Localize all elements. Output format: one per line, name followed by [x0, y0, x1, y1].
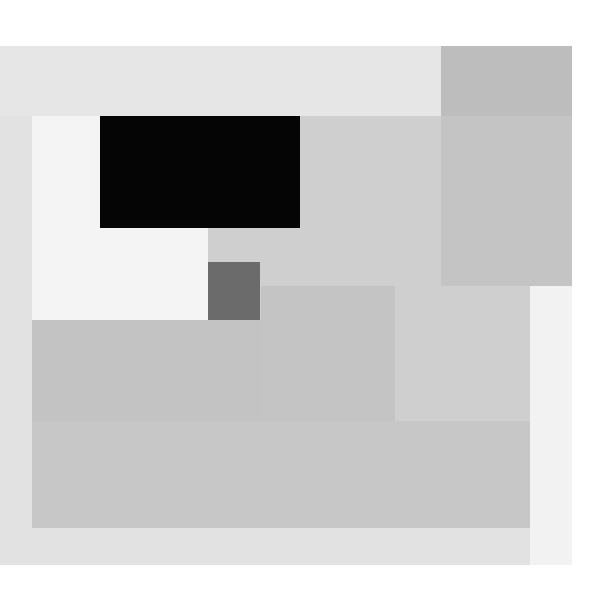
right-white-patch	[530, 286, 572, 565]
lower-slab	[32, 421, 530, 528]
center-square	[261, 286, 395, 421]
black-rectangle	[100, 116, 300, 228]
top-band	[0, 46, 441, 116]
painting-canvas	[0, 46, 572, 565]
dark-square	[208, 262, 260, 320]
lower-left-slab	[32, 320, 261, 421]
top-right-block-lower	[441, 116, 572, 286]
